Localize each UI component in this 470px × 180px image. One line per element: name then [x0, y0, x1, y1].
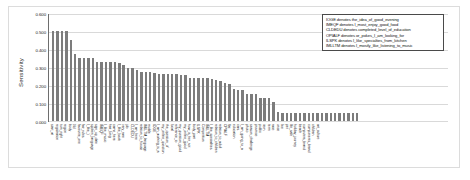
bar[interactable]	[171, 74, 173, 121]
bar[interactable]	[74, 54, 76, 122]
bar[interactable]	[272, 102, 274, 121]
bar[interactable]	[100, 62, 102, 121]
bar[interactable]	[184, 75, 186, 121]
bar[interactable]	[255, 94, 257, 121]
bar[interactable]	[202, 78, 204, 121]
y-axis-tick-labels: 0.6000.5000.4000.3000.2000.1000.000	[24, 14, 46, 122]
bar[interactable]	[92, 58, 94, 121]
bar[interactable]	[114, 62, 116, 121]
chart-figure: Sensitivity 0.6000.5000.4000.3000.2000.1…	[0, 0, 470, 180]
bar[interactable]	[215, 80, 217, 121]
bar[interactable]	[250, 94, 252, 121]
y-axis-tick-label: 0.200	[36, 84, 47, 89]
bar[interactable]	[316, 113, 318, 121]
y-axis-tick-label: 0.600	[36, 12, 47, 17]
bar[interactable]	[224, 83, 226, 121]
bar[interactable]	[65, 31, 67, 121]
legend-entry: IMLLTM denotes I_mostly_like_listening_t…	[326, 43, 440, 48]
bar[interactable]	[131, 68, 133, 121]
bar[interactable]	[153, 73, 155, 121]
y-axis-title-label: Sensitivity	[17, 58, 24, 87]
bar[interactable]	[321, 113, 323, 121]
bar[interactable]	[211, 79, 213, 121]
y-axis-tick-label: 0.400	[36, 48, 47, 53]
bar[interactable]	[286, 113, 288, 121]
bar[interactable]	[87, 58, 89, 121]
gridline	[49, 121, 448, 122]
bar[interactable]	[308, 113, 310, 121]
y-axis-tick-label: 0.000	[36, 120, 47, 125]
bar[interactable]	[56, 31, 58, 121]
bar[interactable]	[158, 74, 160, 121]
bar[interactable]	[277, 112, 279, 121]
bar[interactable]	[347, 113, 349, 121]
bar[interactable]	[206, 78, 208, 121]
bar[interactable]	[127, 68, 129, 121]
bar[interactable]	[162, 74, 164, 121]
bar[interactable]	[281, 113, 283, 121]
bar[interactable]	[180, 75, 182, 121]
bar[interactable]	[189, 78, 191, 121]
bar[interactable]	[241, 90, 243, 121]
bar[interactable]	[52, 31, 54, 121]
bar[interactable]	[352, 113, 354, 121]
bar[interactable]	[78, 58, 80, 121]
bar[interactable]	[330, 113, 332, 121]
x-axis-tick-labels: start_atregistrationturn_rightregionbody…	[48, 123, 448, 169]
bar[interactable]	[228, 84, 230, 121]
y-axis-tick-label: 0.300	[36, 66, 47, 71]
bar[interactable]	[149, 72, 151, 121]
bar[interactable]	[290, 113, 292, 121]
bar[interactable]	[343, 113, 345, 121]
bar[interactable]	[334, 113, 336, 121]
bar[interactable]	[193, 78, 195, 121]
bar[interactable]	[122, 65, 124, 121]
bar[interactable]	[312, 113, 314, 121]
bar[interactable]	[96, 62, 98, 121]
bar[interactable]	[219, 81, 221, 122]
bar[interactable]	[338, 113, 340, 121]
bar[interactable]	[303, 113, 305, 121]
bar[interactable]	[145, 72, 147, 121]
bar[interactable]	[325, 113, 327, 121]
bar[interactable]	[356, 113, 358, 121]
bar[interactable]	[109, 62, 111, 121]
bar[interactable]	[259, 98, 261, 121]
bar[interactable]	[105, 62, 107, 121]
bar[interactable]	[167, 74, 169, 121]
bar[interactable]	[263, 98, 265, 121]
bar[interactable]	[246, 94, 248, 121]
y-axis-tick-label: 0.100	[36, 102, 47, 107]
bar[interactable]	[83, 58, 85, 121]
bar[interactable]	[197, 78, 199, 121]
x-label-slot	[444, 123, 448, 169]
bar[interactable]	[175, 74, 177, 121]
bar[interactable]	[70, 40, 72, 121]
bar[interactable]	[294, 113, 296, 121]
bar[interactable]	[140, 72, 142, 122]
bar[interactable]	[233, 89, 235, 121]
bar[interactable]	[237, 90, 239, 122]
bar[interactable]	[268, 98, 270, 121]
bar[interactable]	[299, 113, 301, 121]
bar[interactable]	[118, 63, 120, 122]
legend: IOGE denotes the_idea_of_good_eveningIME…	[322, 14, 444, 51]
bar[interactable]	[61, 31, 63, 121]
bar[interactable]	[136, 70, 138, 121]
y-axis-tick-label: 0.500	[36, 30, 47, 35]
